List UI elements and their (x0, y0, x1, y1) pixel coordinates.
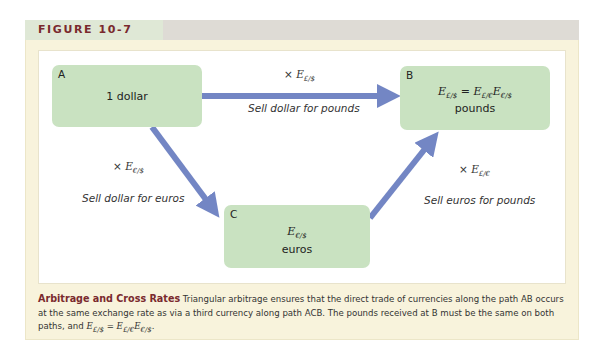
edge-ac-rate: × E€/$ (113, 160, 144, 175)
node-a-value: 1 dollar (52, 89, 202, 104)
period: . (152, 321, 155, 331)
equals: = (457, 85, 473, 98)
edge-ab-rate: × E£/$ (284, 68, 315, 83)
edge-ac-label: Sell dollar for euros (82, 192, 184, 204)
edge-cb-label: Sell euros for pounds (424, 194, 535, 206)
times: × (459, 163, 471, 175)
times: × (113, 160, 125, 172)
equals: = (104, 321, 117, 331)
sym: E (493, 85, 501, 98)
sym: E (125, 160, 133, 172)
node-b: B E£/$ = E£/€E€/$ pounds (400, 66, 550, 130)
sub: £/€ (479, 170, 490, 178)
sub: £/$ (446, 92, 457, 100)
node-c-formula: E€/$ (224, 224, 370, 244)
node-b-letter: B (406, 69, 413, 81)
edge-ab-label: Sell dollar for pounds (248, 102, 360, 114)
sym: E (438, 85, 446, 98)
times: × (284, 68, 296, 80)
sub: €/$ (501, 92, 512, 100)
sub: £/$ (304, 75, 315, 83)
node-a: A 1 dollar (52, 65, 202, 127)
edge-cb-rate: × E£/€ (459, 163, 490, 178)
figure-caption: Arbitrage and Cross Rates Triangular arb… (38, 292, 566, 338)
sub: £/€ (481, 92, 492, 100)
sub: €/$ (295, 232, 306, 240)
sub: €/$ (133, 167, 144, 175)
node-a-letter: A (58, 68, 65, 80)
sym: E (471, 163, 479, 175)
arrow-c-to-b (370, 140, 432, 218)
sub: £/€ (123, 326, 134, 334)
sub: £/$ (93, 326, 104, 334)
caption-title: Arbitrage and Cross Rates (38, 293, 180, 304)
sub: €/$ (140, 326, 151, 334)
node-c-unit: euros (224, 242, 370, 257)
node-b-unit: pounds (400, 101, 550, 116)
node-c: C E€/$ euros (224, 205, 370, 268)
sym: E (296, 68, 304, 80)
node-c-letter: C (230, 208, 237, 220)
